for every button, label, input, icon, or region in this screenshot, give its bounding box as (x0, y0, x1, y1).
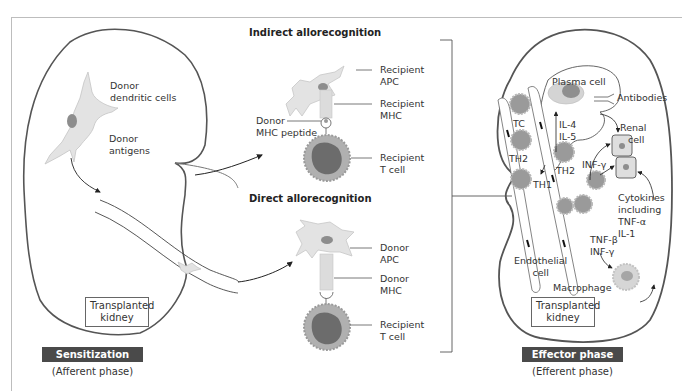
bracket (440, 40, 452, 352)
th2-left-label: TH2 (509, 153, 528, 165)
donor-mhc-peptide-label: Donor MHC peptide (256, 115, 317, 139)
tnf-beta-label: TNF-β INF-γ (590, 234, 618, 258)
renal-cell-label: Renal cell (620, 122, 647, 146)
label-line: cell (514, 267, 567, 279)
label-line: APC (380, 76, 424, 88)
label-line: Transplanted (536, 300, 590, 312)
transplanted-kidney-label-right: Transplanted kidney (531, 297, 595, 327)
label-line: Recipient (380, 319, 424, 331)
direct-allorecognition-title: Direct allorecognition (249, 193, 372, 204)
recipient-apc (286, 66, 344, 116)
label-line: dendritic cells (110, 92, 176, 104)
efferent-phase-label: (Efferent phase) (522, 366, 623, 377)
label-line: Donor (110, 80, 176, 92)
th1-label: TH1 (533, 179, 552, 191)
th2-right-label: TH2 (556, 165, 575, 177)
label-line: cell (620, 134, 647, 146)
label-line: TNF-β (590, 234, 618, 246)
cytokines-label: Cytokines including TNF-α IL-1 (618, 192, 665, 240)
label-line: TNF-α (618, 216, 665, 228)
afferent-phase-label: (Afferent phase) (42, 366, 143, 377)
donor-mhc-label: Donor MHC (380, 273, 409, 297)
label-line: MHC (380, 110, 424, 122)
left-kidney-outline (24, 29, 239, 334)
macrophage (613, 264, 639, 290)
label-line: Endothelial (514, 255, 567, 267)
label-line: Recipient (380, 64, 424, 76)
label-line: Renal (620, 122, 647, 134)
transplanted-kidney-label-left: Transplanted kidney (85, 297, 149, 327)
label-line: APC (380, 254, 409, 266)
plasma-cell-label: Plasma cell (552, 76, 606, 88)
label-line: Cytokines (618, 192, 665, 204)
label-line: including (618, 204, 665, 216)
donor-antigens-label: Donor antigens (109, 133, 150, 157)
label-line: Donor (380, 242, 409, 254)
il5-label: IL-5 (559, 131, 576, 143)
recipient-mhc-label: Recipient MHC (380, 98, 424, 122)
recipient-apc-label: Recipient APC (380, 64, 424, 88)
tc-label: TC (513, 118, 525, 130)
recipient-mhc (320, 90, 332, 118)
effector-phase-badge: Effector phase (522, 347, 623, 362)
donor-apc-label: Donor APC (380, 242, 409, 266)
label-line: Donor (380, 273, 409, 285)
recipient-t-cell-label: Recipient T cell (380, 152, 424, 176)
label-line: Donor (256, 115, 317, 127)
label-line: kidney (536, 312, 590, 324)
endothelial-cell-label: Endothelial cell (514, 255, 567, 279)
label-line: Donor (109, 133, 150, 145)
donor-dendritic-cell (45, 72, 118, 164)
antibodies-label: Antibodies (617, 92, 667, 104)
label-line: T cell (380, 164, 424, 176)
donor-apc (296, 220, 354, 258)
label-line: T cell (380, 331, 424, 343)
label-line: IL-1 (618, 228, 665, 240)
label-line: MHC peptide (256, 127, 317, 139)
donor-mhc (320, 254, 333, 290)
donor-dendritic-cells-label: Donor dendritic cells (110, 80, 176, 104)
label-line: INF-γ (590, 246, 618, 258)
recipient-t-cell-direct-label: Recipient T cell (380, 319, 424, 343)
sensitization-phase-badge: Sensitization phase (42, 347, 143, 362)
il4-label: IL-4 (559, 119, 576, 131)
macrophage-label: Macrophage (553, 282, 612, 294)
label-line: Recipient (380, 98, 424, 110)
label-line: Transplanted (90, 300, 144, 312)
recipient-t-cell-indirect (304, 135, 350, 181)
recipient-t-cell-direct (304, 304, 350, 350)
label-line: kidney (90, 312, 144, 324)
indirect-allorecognition-title: Indirect allorecognition (249, 27, 381, 38)
label-line: MHC (380, 285, 409, 297)
inf-gamma-label: INF-γ (582, 159, 606, 171)
label-line: Recipient (380, 152, 424, 164)
label-line: antigens (109, 145, 150, 157)
